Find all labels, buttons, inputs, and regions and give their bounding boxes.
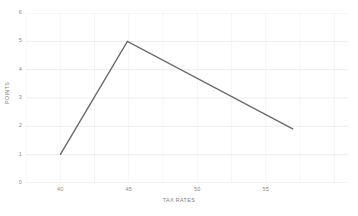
y-axis-tick-label: 3: [8, 95, 22, 101]
plot-area: [26, 13, 348, 183]
y-axis-tick-label: 0: [8, 180, 22, 186]
plot-svg: [26, 13, 348, 183]
x-axis-tick-label: 40: [50, 186, 70, 192]
y-axis-tick-label: 6: [8, 10, 22, 16]
line-chart: 0123456 40455055 POINTS TAX RATES: [0, 0, 358, 216]
y-axis-tick-label: 2: [8, 123, 22, 129]
y-axis-tick-label: 1: [8, 152, 22, 158]
x-axis-tick-label: 45: [119, 186, 139, 192]
x-axis-title: TAX RATES: [0, 197, 358, 203]
y-axis-title: POINTS: [4, 73, 10, 113]
x-axis-tick-label: 55: [256, 186, 276, 192]
x-axis-tick-label: 50: [187, 186, 207, 192]
y-axis-tick-label: 5: [8, 38, 22, 44]
y-axis-tick-label: 4: [8, 67, 22, 73]
x-axis-tick-labels: 40455055: [26, 186, 348, 196]
